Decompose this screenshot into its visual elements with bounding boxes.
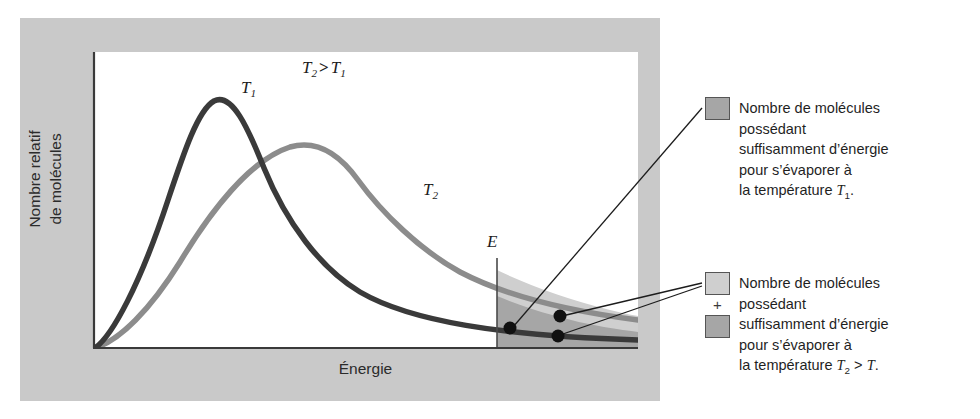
x-axis-title: Énergie bbox=[93, 360, 638, 378]
legend-temperature-symbol-1: T bbox=[837, 182, 845, 198]
legend-item-t2: + Nombre de molécules possédant suffisam… bbox=[705, 272, 889, 378]
leader-line-to-legend-2-upper bbox=[562, 283, 702, 316]
curve-label-t2: T2 bbox=[423, 180, 438, 201]
legend-swatch-column-1 bbox=[705, 97, 730, 120]
legend-comparison-operator: > bbox=[850, 357, 867, 373]
callout-dot-between-curves bbox=[554, 310, 567, 323]
leader-line-to-legend-1 bbox=[513, 108, 702, 327]
callout-dot-under-t1 bbox=[504, 322, 517, 335]
callout-dot-under-t1-second bbox=[552, 330, 565, 343]
figure-maxwell-boltzmann-distribution: Nombre relatif de molécules Énergie T2>T… bbox=[0, 0, 980, 419]
legend-item-t1: Nombre de molécules possédant suffisamme… bbox=[705, 97, 889, 203]
legend-comparison-symbol: T bbox=[867, 357, 875, 373]
y-axis-title: Nombre relatif de molécules bbox=[25, 69, 67, 289]
legend-swatch-dark-2 bbox=[705, 315, 730, 338]
legend-text-1-body: Nombre de molécules possédant suffisamme… bbox=[739, 100, 889, 198]
relation-right-subscript: 1 bbox=[340, 67, 346, 79]
legend-swatch-column-2: + bbox=[705, 272, 730, 338]
legend-trailing-2: . bbox=[875, 357, 879, 373]
curve-label-t1-subscript: 1 bbox=[250, 87, 256, 99]
legend-text-1: Nombre de molécules possédant suffisamme… bbox=[739, 97, 889, 203]
legend-temperature-symbol-2: T bbox=[837, 357, 845, 373]
legend-trailing-1: . bbox=[850, 182, 854, 198]
relation-annotation: T2>T1 bbox=[302, 58, 346, 79]
relation-operator: > bbox=[317, 58, 331, 77]
relation-right-symbol: T bbox=[331, 58, 340, 77]
legend-plus-sign: + bbox=[713, 297, 722, 312]
legend-swatch-light-2 bbox=[705, 272, 730, 295]
legend-text-2: Nombre de molécules possédant suffisamme… bbox=[739, 272, 889, 378]
legend-swatch-dark-1 bbox=[705, 97, 730, 120]
threshold-label-e: E bbox=[487, 232, 497, 252]
curve-label-t2-subscript: 2 bbox=[432, 189, 438, 201]
curve-label-t1: T1 bbox=[241, 78, 256, 99]
